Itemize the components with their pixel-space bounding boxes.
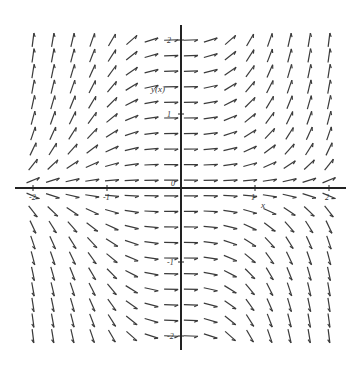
svg-text:-2: -2 — [167, 332, 174, 341]
direction-field-plot: -2-112-2-112 x y(x) 0 — [0, 0, 364, 372]
svg-text:1: 1 — [251, 193, 255, 202]
origin-label: 0 — [171, 179, 175, 188]
y-axis-label: y(x) — [150, 84, 165, 94]
svg-text:-1: -1 — [167, 258, 174, 267]
svg-text:2: 2 — [325, 193, 329, 202]
svg-text:1: 1 — [167, 110, 171, 119]
svg-text:2: 2 — [167, 36, 171, 45]
svg-text:-1: -1 — [103, 193, 110, 202]
x-axis-label: x — [260, 200, 265, 210]
svg-text:-2: -2 — [29, 193, 36, 202]
